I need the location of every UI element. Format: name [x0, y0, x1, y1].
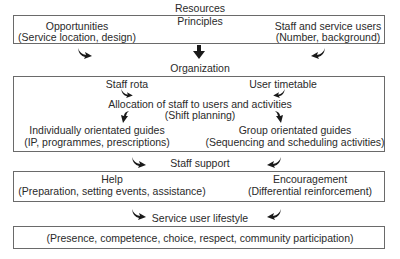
- curved-arrow-down-left-icon: [272, 88, 286, 98]
- help-title: Help: [101, 173, 123, 185]
- resources-heading: Resources: [175, 2, 225, 14]
- staff-support-heading: Staff support: [170, 157, 229, 169]
- lifestyle-detail: (Presence, competence, choice, respect, …: [47, 232, 354, 244]
- curved-arrow-down-right-icon: [274, 111, 284, 123]
- group-guides-title: Group orientated guides: [239, 124, 352, 136]
- curved-arrow-down-right-icon: [120, 88, 134, 98]
- allocation-detail: (Shift planning): [165, 109, 236, 121]
- individual-guides-title: Individually orientated guides: [29, 124, 164, 136]
- encouragement-title: Encouragement: [273, 173, 347, 185]
- organization-heading: Organization: [170, 62, 230, 74]
- curved-arrow-down-left-icon: [310, 47, 326, 59]
- curved-arrow-down-right-icon: [131, 208, 147, 220]
- curved-arrow-down-left-icon: [266, 156, 282, 168]
- staff-users-detail: (Number, background): [276, 31, 380, 43]
- curved-arrow-down-right-icon: [77, 47, 93, 59]
- group-guides-detail: (Sequencing and scheduling activities): [205, 136, 384, 148]
- encouragement-detail: (Differential reinforcement): [248, 185, 372, 197]
- lifestyle-heading: Service user lifestyle: [152, 212, 248, 224]
- help-detail: (Preparation, setting events, assistance…: [18, 185, 205, 197]
- individual-guides-detail: (IP, programmes, prescriptions): [24, 136, 170, 148]
- curved-arrow-down-right-icon: [131, 156, 147, 168]
- principles-label: Principles: [177, 15, 223, 27]
- curved-arrow-down-left-icon: [266, 208, 282, 220]
- curved-arrow-down-left-icon: [120, 111, 130, 123]
- arrow-down-icon: [193, 45, 205, 59]
- opportunities-detail: (Service location, design): [18, 31, 136, 43]
